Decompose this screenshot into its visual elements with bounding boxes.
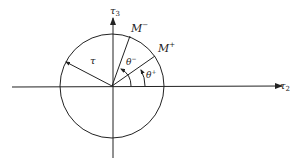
m-minus-label: M−: [130, 21, 148, 35]
radius-arrow: [66, 62, 112, 86]
m-plus-label: M+: [157, 41, 175, 55]
tau3-label: τ3: [110, 5, 120, 18]
theta-plus-label: θ+: [146, 68, 156, 80]
theta-minus-label: θ−: [126, 55, 136, 67]
tau2-label: τ2: [280, 80, 290, 93]
tau2-axis: [12, 86, 282, 87]
radius-tau-label: τ: [90, 55, 96, 66]
mohr-circle-diagram: τ3 τ2 τ M− M+ θ− θ+: [0, 0, 297, 165]
theta-plus-arc: [141, 70, 145, 86]
theta-minus-arc: [121, 69, 131, 86]
